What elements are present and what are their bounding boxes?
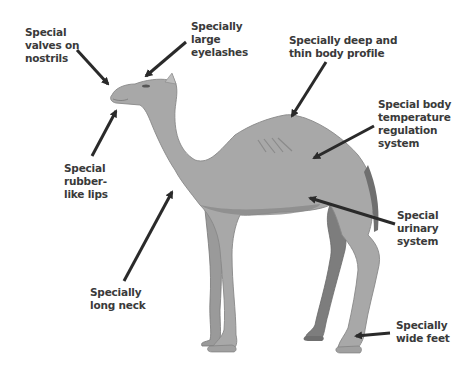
label-feet: Specially wide feet (396, 319, 450, 345)
camel-eye (142, 84, 150, 87)
camel-far-hind-foot (304, 336, 324, 341)
label-nostrils: Special valves on nostrils (25, 26, 79, 65)
label-neck: Specially long neck (90, 286, 145, 312)
camel-hind-foot (336, 346, 362, 353)
label-lips: Special rubber- like lips (64, 162, 108, 201)
camel-front-foot (208, 345, 237, 352)
label-temperature: Special body temperature regulation syst… (378, 98, 451, 150)
camel-ear (165, 73, 176, 84)
label-urinary: Special urinary system (397, 209, 438, 248)
label-eyelashes: Specially large eyelashes (191, 20, 248, 59)
label-body-profile: Specially deep and thin body profile (289, 34, 397, 60)
arrow-body-profile (292, 62, 326, 116)
arrow-eyelashes (146, 42, 186, 76)
arrow-neck (124, 192, 172, 281)
arrow-nostrils (77, 50, 108, 84)
arrow-lips (92, 111, 116, 156)
camel-adaptations-diagram: Special valves on nostrils Specially lar… (0, 0, 471, 369)
